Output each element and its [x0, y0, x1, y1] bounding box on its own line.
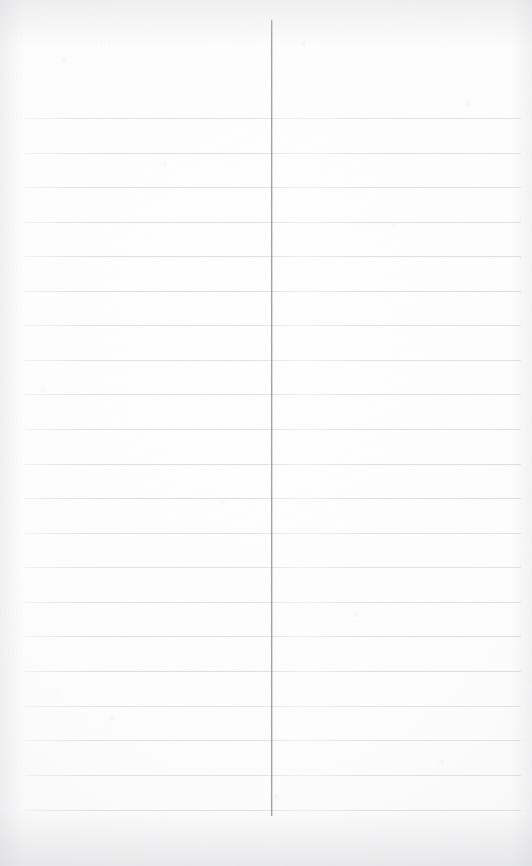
rule-line	[25, 567, 521, 568]
rule-line	[25, 222, 521, 223]
rule-line	[25, 256, 521, 257]
rule-line	[25, 740, 521, 741]
rule-line	[25, 325, 521, 326]
rule-line	[25, 429, 521, 430]
rule-line	[25, 360, 521, 361]
rule-line	[25, 706, 521, 707]
rule-line	[25, 775, 521, 776]
rule-line	[25, 810, 521, 811]
notebook-page	[0, 0, 532, 866]
rule-line	[25, 602, 521, 603]
rule-line	[25, 533, 521, 534]
rule-line	[25, 498, 521, 499]
rule-line	[25, 671, 521, 672]
rule-line	[25, 153, 521, 154]
rule-line	[25, 118, 521, 119]
rule-line	[25, 636, 521, 637]
rule-line	[25, 291, 521, 292]
vertical-margin-rule	[271, 20, 272, 816]
rule-line	[25, 394, 521, 395]
horizontal-rule-lines	[0, 0, 532, 866]
rule-line	[25, 464, 521, 465]
rule-line	[25, 187, 521, 188]
